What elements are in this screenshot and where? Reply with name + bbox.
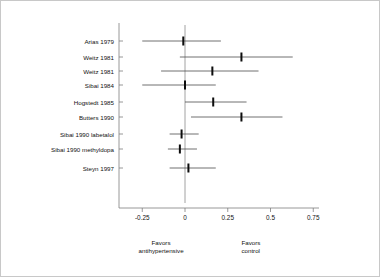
favors-antihypertensive-annotation: Favors antihypertensive <box>139 239 184 254</box>
favors-right-line2: control <box>241 247 260 255</box>
x-axis-tick-label: 0.5 <box>266 214 275 221</box>
study-label: Steyn 1997 <box>83 165 114 172</box>
plot-canvas <box>1 1 380 277</box>
study-label: Weitz 1981 <box>83 54 114 61</box>
forest-row <box>142 37 221 46</box>
study-label: Arias 1979 <box>84 38 114 45</box>
study-label: Weitz 1981 <box>83 68 114 75</box>
x-axis-tick-label: 0 <box>183 214 187 221</box>
x-axis-tick-label: -0.25 <box>135 214 150 221</box>
x-axis-tick-label: 0.25 <box>222 214 234 221</box>
forest-row <box>168 145 197 154</box>
forest-row <box>142 81 216 90</box>
forest-row <box>185 98 247 107</box>
study-label: Sibai 1984 <box>85 82 114 89</box>
study-label: Butters 1990 <box>79 114 114 121</box>
forest-row <box>170 130 199 139</box>
favors-right-line1: Favors <box>241 239 260 247</box>
plot-area: Arias 1979Weitz 1981Weitz 1981Sibai 1984… <box>1 1 380 277</box>
favors-left-line1: Favors <box>139 239 184 247</box>
forest-row <box>180 53 293 62</box>
favors-control-annotation: Favors control <box>241 239 260 254</box>
favors-left-line2: antihypertensive <box>139 247 184 255</box>
study-label: Sibai 1990 labetalol <box>60 131 114 138</box>
forest-row <box>191 113 282 122</box>
forest-row <box>170 164 216 173</box>
x-axis-tick-label: 0.75 <box>307 214 319 221</box>
study-label: Hogstedt 1985 <box>74 99 114 106</box>
forest-row <box>161 67 258 76</box>
study-label: Sibai 1990 methyldopa <box>51 146 114 153</box>
forest-plot-figure: Arias 1979Weitz 1981Weitz 1981Sibai 1984… <box>0 0 380 277</box>
